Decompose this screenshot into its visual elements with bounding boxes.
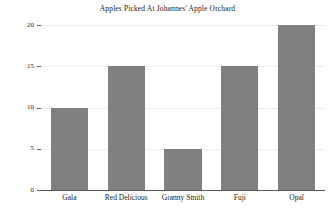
bar (278, 25, 315, 190)
bar (51, 108, 88, 191)
chart-title: Apples Picked At Johannes' Apple Orchard (0, 4, 335, 13)
x-tick-label: Granny Smith (155, 193, 212, 202)
y-tick-label: 5 (18, 145, 34, 152)
y-tick-mark (37, 190, 41, 191)
y-tick-label: 0 (18, 187, 34, 194)
x-tick-label: Gala (41, 193, 98, 202)
y-tick-label: 10 (18, 104, 34, 111)
y-axis-tick-labels: 05101520 (14, 0, 34, 217)
y-tick-label: 20 (18, 22, 34, 29)
bar (164, 149, 201, 190)
x-axis-tick-labels: GalaRed DeliciousGranny SmithFujiOpal (41, 193, 325, 207)
x-tick-label: Fuji (211, 193, 268, 202)
x-axis-line (41, 190, 325, 191)
bar (221, 66, 258, 190)
x-tick-label: Opal (268, 193, 325, 202)
y-tick-mark (37, 108, 41, 109)
bars-layer (41, 25, 325, 190)
x-tick-label: Red Delicious (98, 193, 155, 202)
y-tick-mark (37, 149, 41, 150)
bar-chart: Apples Picked At Johannes' Apple Orchard… (0, 0, 335, 217)
bar (108, 66, 145, 190)
y-tick-mark (37, 25, 41, 26)
y-tick-mark (37, 66, 41, 67)
y-tick-label: 15 (18, 63, 34, 70)
